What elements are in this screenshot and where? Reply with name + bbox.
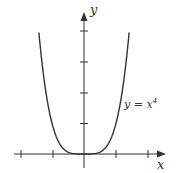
- y-axis-label: y: [89, 2, 98, 17]
- curve-label: y = x4: [123, 97, 157, 111]
- x-axis-label: x: [157, 157, 165, 172]
- curve-label-base: y = x: [123, 98, 153, 111]
- curve-label-exponent: 4: [152, 97, 157, 105]
- graph-canvas: y x y = x4: [0, 0, 186, 173]
- y-axis-arrow-icon: [81, 12, 88, 21]
